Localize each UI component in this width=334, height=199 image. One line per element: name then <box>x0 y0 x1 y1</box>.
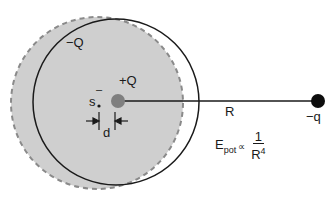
potential-energy-formula: Epot ∝ 1 R4 <box>215 130 266 162</box>
nucleus-dot <box>111 94 125 108</box>
nucleus-charge-label: +Q <box>119 74 137 87</box>
point-charge-label: −q <box>306 110 321 123</box>
formula-fraction: 1 R4 <box>251 130 265 162</box>
displacement-label: d <box>103 126 110 139</box>
proportional-symbol: ∝ <box>238 141 245 152</box>
cloud-charge-label: −Q <box>66 36 84 49</box>
formula-lhs: Epot <box>215 137 236 155</box>
s-label: s <box>89 95 96 108</box>
distance-label: R <box>225 105 234 118</box>
point-charge-dot <box>311 94 325 108</box>
s-bar-label: – <box>96 84 102 95</box>
cloud-center-dot <box>97 104 100 107</box>
formula-numerator: 1 <box>253 130 264 144</box>
electron-cloud <box>11 17 183 189</box>
induced-dipole-diagram <box>0 0 334 199</box>
formula-denominator: R4 <box>251 144 265 162</box>
